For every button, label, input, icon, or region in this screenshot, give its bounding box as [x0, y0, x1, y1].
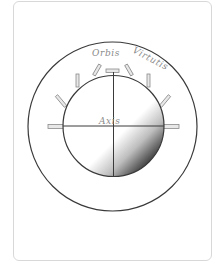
center-axis-label: Axis — [98, 116, 120, 126]
rod-upper-right — [125, 64, 134, 76]
rod-left-vertical — [76, 74, 79, 87]
rod-top — [106, 69, 119, 73]
rod-right-diagonal — [159, 95, 170, 108]
title-left-label: Orbis — [92, 48, 120, 58]
title-right-label: Virtutis — [131, 45, 170, 72]
rod-right-vertical — [147, 74, 150, 87]
rod-upper-left — [93, 64, 102, 76]
rod-left-diagonal — [55, 95, 66, 108]
